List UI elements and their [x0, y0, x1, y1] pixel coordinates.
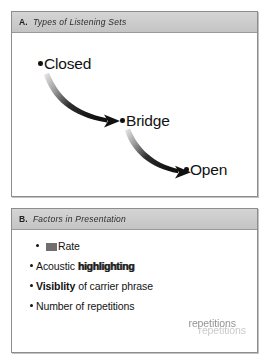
bullet-icon [30, 284, 33, 287]
bullet-visibility-lead: Visiblity [36, 280, 75, 292]
bullet-repetitions-text: repetitions [87, 300, 134, 312]
panel-a-letter: A. [19, 17, 28, 27]
echo-repetitions-2: repetitions [198, 324, 245, 336]
factors-bullet-list: Rate Acoustic highlighting Visiblity of … [30, 240, 251, 320]
node-bullet-icon [38, 61, 43, 66]
arrow-bridge-to-open [125, 128, 191, 178]
bullet-repetitions-prefix: Number of [36, 300, 84, 312]
bullet-icon [30, 304, 33, 307]
panel-b-body: Rate Acoustic highlighting Visiblity of … [12, 230, 257, 352]
bullet-acoustic-prefix: Acoustic [36, 260, 75, 272]
panel-b: B. Factors in Presentation Rate Acoustic… [11, 208, 258, 353]
list-item: Number of repetitions repetitions repeti… [30, 300, 251, 312]
node-bullet-icon [120, 118, 125, 123]
node-closed: Closed [38, 55, 91, 73]
list-item: Acoustic highlighting [30, 260, 251, 272]
bullet-icon [30, 264, 33, 267]
bullet-visibility-text: of carrier phrase [78, 280, 153, 292]
panel-b-header: B. Factors in Presentation [12, 209, 257, 230]
list-item: Visiblity of carrier phrase [30, 280, 251, 292]
panel-a-title: Types of Listening Sets [33, 17, 126, 27]
panel-a: A. Types of Listening Sets [11, 11, 258, 197]
list-item: Rate [36, 240, 251, 252]
bullet-icon [36, 244, 39, 247]
bullet-rate-text: Rate [58, 240, 80, 252]
redaction-block-icon [46, 243, 57, 251]
node-bridge: Bridge [120, 112, 170, 130]
bullet-acoustic-emphasis: highlighting [78, 260, 134, 272]
panel-a-body: Closed Bridge Open [12, 33, 257, 196]
arrow-closed-to-bridge [44, 73, 120, 128]
panel-b-letter: B. [19, 214, 28, 224]
node-bullet-icon [184, 167, 189, 172]
panel-a-header: A. Types of Listening Sets [12, 12, 257, 33]
panel-b-title: Factors in Presentation [33, 214, 126, 224]
figure-container: A. Types of Listening Sets [0, 0, 270, 364]
node-bridge-label: Bridge [126, 112, 170, 130]
node-open-label: Open [190, 161, 227, 179]
node-closed-label: Closed [44, 55, 91, 73]
node-open: Open [184, 161, 227, 179]
